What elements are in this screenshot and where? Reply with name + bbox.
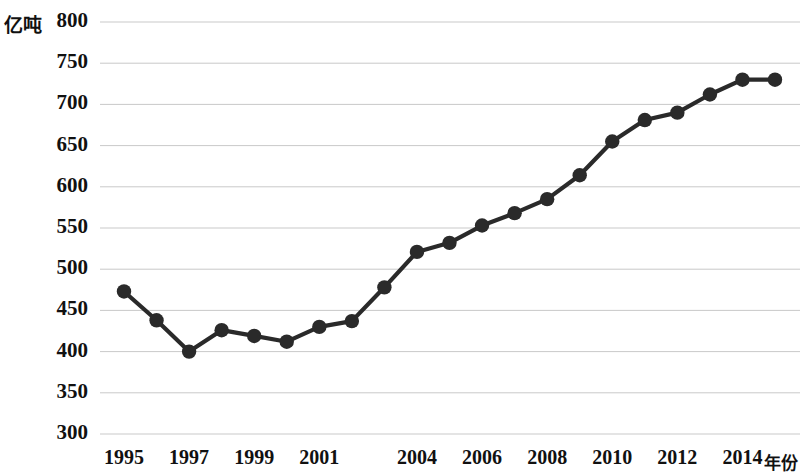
data-point-2009 — [573, 168, 587, 182]
data-point-2003 — [377, 280, 391, 294]
data-point-2015 — [768, 72, 782, 86]
data-point-1998 — [214, 323, 228, 337]
data-point-2002 — [345, 314, 359, 328]
data-point-2007 — [507, 206, 521, 220]
data-point-1999 — [247, 329, 261, 343]
data-point-2001 — [312, 320, 326, 334]
series-markers — [117, 72, 782, 358]
data-point-2000 — [280, 335, 294, 349]
data-point-1995 — [117, 284, 131, 298]
data-point-2012 — [670, 105, 684, 119]
data-point-2008 — [540, 192, 554, 206]
data-point-2011 — [638, 113, 652, 127]
data-point-2013 — [703, 87, 717, 101]
data-point-1996 — [149, 313, 163, 327]
data-point-2004 — [410, 245, 424, 259]
grid-lines — [100, 22, 800, 434]
data-point-2006 — [475, 218, 489, 232]
plot-area — [0, 0, 812, 474]
data-point-2014 — [735, 72, 749, 86]
data-point-2005 — [442, 236, 456, 250]
data-point-1997 — [182, 344, 196, 358]
line-chart: 亿吨 年份 300350400450500550600650700750800 … — [0, 0, 812, 474]
data-point-2010 — [605, 134, 619, 148]
